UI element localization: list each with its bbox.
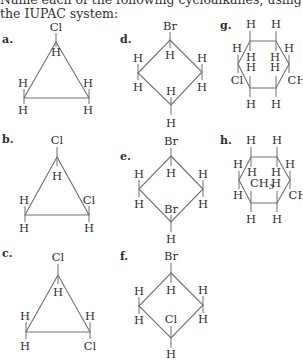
atom-h: H [272, 212, 282, 226]
atom-h: H [166, 232, 176, 246]
structure-label: e. [120, 150, 131, 163]
atom-ch: CH [289, 188, 303, 202]
atom-h: H [51, 45, 61, 59]
atom-h: H [198, 167, 208, 181]
atom-br: Br [164, 134, 178, 148]
atom-h: H [165, 48, 175, 62]
structure-label: d. [120, 33, 132, 46]
structure-c: c.ClHHHHCl [2, 247, 97, 353]
atom-h: H [134, 313, 144, 327]
atom-h: H [53, 285, 63, 299]
atom-h: H [271, 97, 281, 111]
atom-cl: Cl [231, 73, 244, 87]
atom-h: H [20, 339, 30, 353]
atom-h: H [272, 133, 282, 147]
atom-h: H [19, 221, 29, 235]
atom-h: H [166, 84, 176, 98]
structure-a: a.ClHHHHH [2, 20, 93, 117]
atom-h: H [166, 283, 176, 297]
atom-h: H [85, 309, 95, 323]
atom-h: H [197, 80, 207, 94]
atom-h: H [198, 283, 208, 297]
atom-h: H [246, 133, 256, 147]
atom-h: H [232, 41, 242, 55]
structure-label: h. [220, 134, 232, 147]
structure-f: f.BrHHHHHClH [120, 249, 208, 361]
atom-br: Br [164, 249, 178, 263]
cycloalkane-structures-diagram: a.ClHHHHHb.ClHHHClHc.ClHHHHCld.BrHHHHHHH… [0, 0, 303, 361]
atom-cl: Cl [83, 193, 96, 207]
atom-h: H [133, 51, 143, 65]
atom-cl: Cl [165, 312, 178, 326]
structure-label: b. [2, 133, 14, 146]
atom-h: H [246, 212, 256, 226]
structure-e: e.BrHHHHHBrH [120, 134, 208, 246]
atom-h: H [19, 193, 29, 207]
atom-h: H [285, 157, 295, 171]
atom-h: H [246, 97, 256, 111]
structure-label: a. [2, 33, 13, 46]
structure-label: g. [220, 19, 232, 32]
structure-b: b.ClHHHClH [2, 133, 96, 235]
atom-h: H [198, 312, 208, 326]
structure-label: c. [2, 247, 13, 260]
atom-h: H [246, 17, 256, 31]
atom-h: H [284, 41, 294, 55]
atom-h: H [20, 309, 30, 323]
structure-label: f. [120, 250, 128, 263]
atom-h: H [52, 169, 62, 183]
atom-h: H [84, 221, 94, 235]
atom-h: H [271, 176, 281, 190]
structure-g: g.HHHHHClHCHHHHH [220, 17, 303, 111]
atom-cl: Cl [84, 339, 97, 353]
atom-ch: CH [288, 73, 303, 87]
structure-h: h.HHHHHHHCHCH3HHH [220, 133, 303, 226]
atom-h: H [134, 284, 144, 298]
atom-h: H [166, 166, 176, 180]
atom-h: H [83, 76, 93, 90]
atom-h: H [166, 116, 176, 130]
atom-h: H [83, 103, 93, 117]
atom-h: H [134, 167, 144, 181]
atom-br: Br [163, 19, 177, 33]
atom-h: H [233, 188, 243, 202]
atom-cl: Cl [51, 133, 64, 147]
atom-h: H [270, 60, 280, 74]
atom-h: H [246, 60, 256, 74]
atom-h: H [134, 197, 144, 211]
atom-h: H [271, 17, 281, 31]
atom-br: Br [164, 202, 178, 216]
atom-h: H [198, 197, 208, 211]
atom-h: H [18, 103, 28, 117]
atom-h: H [18, 76, 28, 90]
atom-cl: Cl [52, 250, 65, 264]
atom-cl: Cl [50, 20, 63, 34]
atom-h: H [197, 51, 207, 65]
atom-h: H [133, 80, 143, 94]
atom-h: H [166, 347, 176, 361]
atom-h: H [233, 157, 243, 171]
structure-d: d.BrHHHHHHH [120, 19, 207, 130]
